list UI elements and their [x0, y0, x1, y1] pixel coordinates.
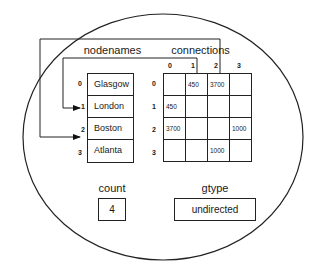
matrix-cell	[230, 140, 252, 162]
matrix-cell	[208, 118, 230, 140]
connections-col-index: 0	[168, 62, 172, 69]
nodename-index: 2	[81, 126, 85, 133]
count-label: count	[86, 182, 138, 194]
nodenames-array: Glasgow London Boston Atlanta	[87, 73, 134, 163]
connections-col-index: 3	[237, 62, 241, 69]
connections-label: connections	[163, 44, 238, 56]
nodename-index: 3	[78, 149, 82, 156]
matrix-cell: 1000	[230, 118, 252, 140]
connections-row-index: 1	[152, 103, 156, 110]
matrix-cell	[208, 96, 230, 118]
matrix-cell	[164, 74, 186, 96]
connections-row-index: 0	[152, 80, 156, 87]
matrix-row: 450 3700	[164, 74, 252, 96]
matrix-row: 450	[164, 96, 252, 118]
gtype-label: gtype	[185, 182, 245, 194]
matrix-cell: 450	[164, 96, 186, 118]
matrix-cell	[164, 140, 186, 162]
matrix-row: 1000	[164, 140, 252, 162]
connections-col-index: 2	[214, 62, 218, 69]
connections-matrix: 450 3700 450 3700 1000 1000	[163, 73, 252, 162]
nodename-cell: Atlanta	[88, 140, 133, 162]
nodename-cell: Boston	[88, 118, 133, 140]
matrix-cell	[186, 118, 208, 140]
matrix-cell	[230, 74, 252, 96]
connections-col-index: 1	[191, 62, 195, 69]
nodename-index: 1	[81, 103, 85, 110]
matrix-cell: 450	[186, 74, 208, 96]
matrix-cell	[230, 96, 252, 118]
connections-row-index: 2	[152, 126, 156, 133]
nodename-cell: London	[88, 96, 133, 118]
gtype-value: undirected	[174, 198, 256, 221]
matrix-cell: 3700	[208, 74, 230, 96]
nodename-index: 0	[78, 80, 82, 87]
nodename-cell: Glasgow	[88, 74, 133, 96]
count-value: 4	[98, 198, 126, 221]
matrix-cell	[186, 96, 208, 118]
matrix-cell: 1000	[208, 140, 230, 162]
diagram-lines	[0, 0, 322, 278]
matrix-cell	[186, 140, 208, 162]
connections-row-index: 3	[152, 149, 156, 156]
nodenames-label: nodenames	[75, 44, 150, 56]
matrix-cell: 3700	[164, 118, 186, 140]
matrix-row: 3700 1000	[164, 118, 252, 140]
